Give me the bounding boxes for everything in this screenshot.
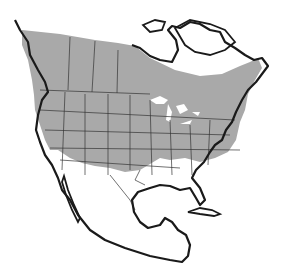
range-map: North America range map	[0, 0, 282, 264]
north-america-map	[0, 0, 282, 264]
cuba	[188, 208, 220, 216]
